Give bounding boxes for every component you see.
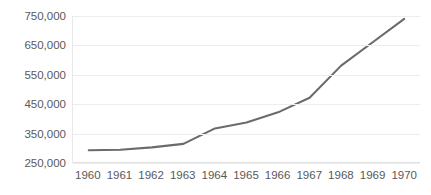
gridline — [73, 163, 420, 164]
x-tick-label: 1962 — [138, 169, 164, 182]
gridline — [73, 16, 420, 17]
gridline — [73, 134, 420, 135]
y-tick-label: 350,000 — [0, 128, 66, 140]
gridline — [73, 75, 420, 76]
x-tick-label: 1964 — [202, 169, 228, 182]
plot-area — [72, 16, 420, 163]
y-tick-label: 250,000 — [0, 157, 66, 169]
y-tick-label: 750,000 — [0, 10, 66, 22]
x-tick-label: 1963 — [170, 169, 196, 182]
y-axis: 250,000350,000450,000550,000650,000750,0… — [0, 0, 66, 195]
y-tick-label: 650,000 — [0, 39, 66, 51]
x-tick-label: 1960 — [75, 169, 101, 182]
x-tick-label: 1965 — [233, 169, 259, 182]
series-line — [89, 19, 404, 150]
x-tick-label: 1966 — [265, 169, 291, 182]
y-tick-label: 550,000 — [0, 69, 66, 81]
x-axis: 1960196119621963196419651966196719681969… — [72, 169, 420, 189]
x-tick-label: 1970 — [391, 169, 417, 182]
x-tick-label: 1968 — [328, 169, 354, 182]
x-tick-label: 1967 — [296, 169, 322, 182]
line-chart: 250,000350,000450,000550,000650,000750,0… — [0, 0, 431, 195]
series-line-group — [73, 16, 420, 162]
gridline — [73, 104, 420, 105]
gridline — [73, 45, 420, 46]
y-tick-label: 450,000 — [0, 98, 66, 110]
x-tick-label: 1969 — [360, 169, 386, 182]
x-tick-label: 1961 — [107, 169, 133, 182]
